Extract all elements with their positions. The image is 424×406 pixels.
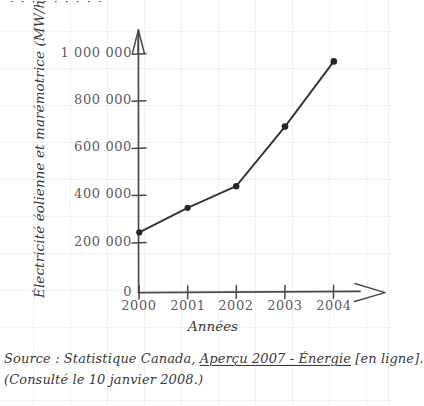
source-prefix: Source : Statistique Canada, <box>4 351 200 366</box>
x-axis-title: Années <box>188 318 238 334</box>
source-publication-title: Aperçu 2007 - Énergie <box>200 351 351 366</box>
data-point-markers <box>136 58 337 235</box>
x-tick-2000: 2000 <box>112 298 166 313</box>
y-axis-tick-labels: 1 000 000 800 000 600 000 400 000 200 00… <box>52 0 132 310</box>
data-point-2004 <box>331 58 338 65</box>
source-suffix: [en ligne]. <box>351 351 424 366</box>
data-point-2001 <box>185 205 191 211</box>
source-line-1: Source : Statistique Canada, Aperçu 2007… <box>4 348 390 369</box>
y-tick-0: 0 <box>54 284 132 299</box>
y-axis <box>133 30 145 293</box>
x-tick-2003: 2003 <box>258 298 312 313</box>
source-note: Source : Statistique Canada, Aperçu 2007… <box>4 348 390 390</box>
data-point-2003 <box>282 123 289 130</box>
y-axis-title: Électricité éolienne et marémotrice (MW/… <box>31 8 47 298</box>
x-tick-2002: 2002 <box>209 298 263 313</box>
x-tick-2001: 2001 <box>161 298 215 313</box>
data-series-line <box>139 61 333 232</box>
y-tick-1000000: 1 000 000 <box>54 45 132 60</box>
data-point-2002 <box>233 183 239 189</box>
y-tick-200000: 200 000 <box>54 234 132 249</box>
y-tick-400000: 400 000 <box>54 186 132 201</box>
data-point-2000 <box>136 229 142 235</box>
y-tick-600000: 600 000 <box>54 139 132 154</box>
x-tick-2004: 2004 <box>307 298 361 313</box>
source-line-2: (Consulté le 10 janvier 2008.) <box>4 369 390 390</box>
y-tick-800000: 800 000 <box>54 92 132 107</box>
